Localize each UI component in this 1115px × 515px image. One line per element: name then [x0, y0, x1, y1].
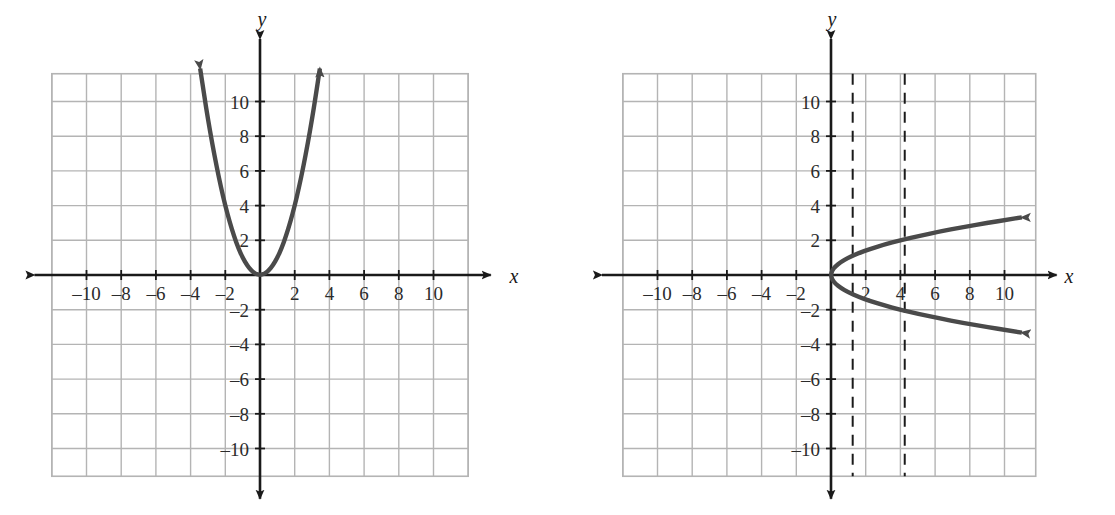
x-tick-label: 4	[325, 283, 335, 304]
x-axis-tick-labels: –10–8–6–4–2246810	[642, 283, 1014, 304]
y-tick-label: –4	[229, 334, 250, 355]
x-tick-label: 10	[424, 283, 443, 304]
figure-page: –10–8–6–4–2246810 108642–2–4–6–8–10 x y	[0, 0, 1115, 515]
x-tick-label: 2	[290, 283, 300, 304]
y-axis-label: y	[256, 8, 267, 31]
x-tick-label: –6	[145, 283, 165, 304]
y-tick-label: –8	[229, 404, 249, 425]
x-axis-tick-labels: –10–8–6–4–2246810	[71, 283, 443, 304]
y-tick-label: –10	[220, 439, 250, 460]
y-tick-label: 6	[240, 161, 250, 182]
right-graph-panel: –10–8–6–4–2246810 108642–2–4–6–8–10 x y	[560, 0, 1115, 515]
y-tick-label: 4	[811, 196, 821, 217]
y-tick-label: –10	[791, 439, 821, 460]
x-tick-label: 6	[930, 283, 940, 304]
x-tick-label: –6	[716, 283, 736, 304]
y-tick-label: –8	[800, 404, 820, 425]
y-tick-label: 8	[811, 126, 821, 147]
y-tick-label: –2	[229, 300, 249, 321]
y-tick-label: –6	[229, 369, 249, 390]
y-tick-label: –6	[800, 369, 820, 390]
x-axis-label: x	[1064, 265, 1074, 287]
x-tick-label: –8	[111, 283, 131, 304]
x-tick-label: 8	[394, 283, 404, 304]
y-tick-label: –4	[800, 334, 821, 355]
y-tick-label: 4	[240, 196, 250, 217]
x-tick-label: 4	[896, 283, 906, 304]
x-tick-label: –8	[682, 283, 702, 304]
axes-group	[34, 39, 490, 499]
y-tick-label: 10	[230, 92, 249, 113]
x-tick-label: –10	[642, 283, 672, 304]
x-axis-label: x	[509, 265, 519, 287]
x-tick-label: –10	[71, 283, 101, 304]
y-tick-label: 2	[240, 230, 250, 251]
y-axis-label: y	[826, 8, 837, 31]
y-tick-label: 8	[240, 126, 250, 147]
y-tick-label: 2	[811, 230, 821, 251]
x-tick-label: 8	[965, 283, 975, 304]
x-tick-label: –4	[751, 283, 772, 304]
x-tick-label: –4	[180, 283, 201, 304]
y-tick-label: 6	[811, 161, 821, 182]
axes-group	[602, 39, 1057, 499]
left-graph-panel: –10–8–6–4–2246810 108642–2–4–6–8–10 x y	[0, 0, 560, 515]
right-coordinate-plane: –10–8–6–4–2246810 108642–2–4–6–8–10 x y	[560, 0, 1115, 515]
x-tick-label: 6	[359, 283, 369, 304]
left-coordinate-plane: –10–8–6–4–2246810 108642–2–4–6–8–10 x y	[0, 0, 560, 515]
x-tick-label: 10	[995, 283, 1014, 304]
y-tick-label: –2	[800, 300, 820, 321]
y-tick-label: 10	[801, 92, 820, 113]
